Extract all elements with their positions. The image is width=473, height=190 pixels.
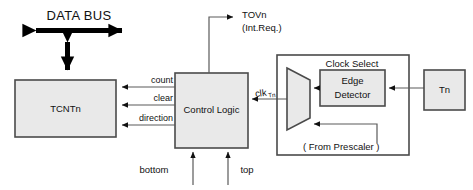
- direction-label: direction: [139, 113, 173, 123]
- edge-detector-label-line1: Edge: [341, 75, 363, 86]
- data-bus-label: DATA BUS: [47, 8, 112, 23]
- clk-tn-subscript: Tn: [268, 91, 277, 99]
- top-label: top: [240, 164, 253, 175]
- tn-label: Tn: [439, 84, 450, 95]
- bottom-label: bottom: [139, 164, 168, 175]
- wire-tovn: [209, 17, 233, 73]
- prescaler-label: ( From Prescaler ): [303, 141, 380, 152]
- tcntn-label: TCNTn: [50, 103, 81, 114]
- tovn-note-label: (Int.Req.): [242, 22, 282, 33]
- clock-select-label: Clock Select: [326, 58, 379, 69]
- block-mux: [287, 68, 310, 130]
- count-label: count: [151, 75, 174, 85]
- diagram-canvas: DATA BUS TCNTn Control Logic Clock Selec…: [0, 0, 473, 190]
- control-logic-label: Control Logic: [184, 104, 240, 115]
- timer-counter-diagram: DATA BUS TCNTn Control Logic Clock Selec…: [0, 0, 473, 190]
- clk-tn-label: clk Tn: [254, 86, 276, 101]
- tovn-label: TOVn: [242, 9, 267, 20]
- clear-label: clear: [153, 93, 173, 103]
- edge-detector-label-line2: Detector: [335, 89, 371, 100]
- clk-tn-main: clk: [254, 87, 267, 99]
